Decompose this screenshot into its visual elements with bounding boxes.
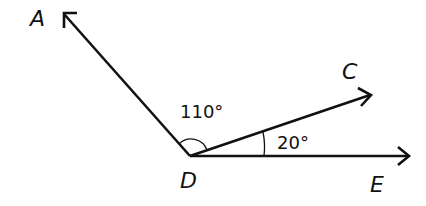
arc-20: [263, 132, 265, 156]
label-a: A: [28, 6, 45, 31]
ray-da: [64, 13, 190, 156]
label-d: D: [180, 168, 197, 193]
angle-diagram: A C D E 110° 20°: [0, 0, 426, 206]
label-e: E: [370, 172, 384, 197]
angle-label-20: 20°: [277, 132, 309, 153]
angle-label-110: 110°: [180, 101, 223, 122]
label-c: C: [342, 59, 358, 84]
